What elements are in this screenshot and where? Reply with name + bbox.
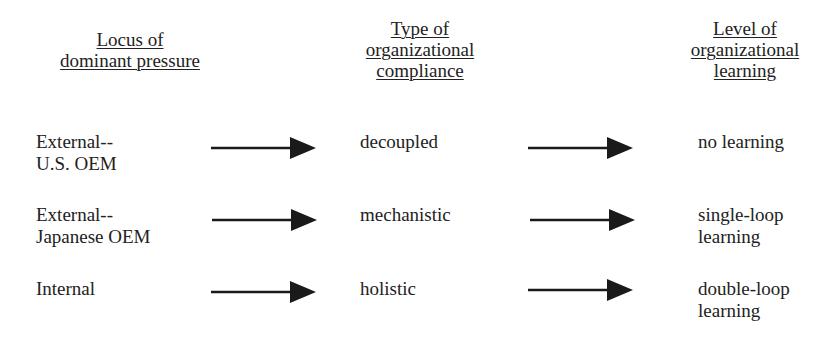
arrow-right-icon	[211, 208, 319, 232]
header-learning-line3: learning	[670, 60, 820, 81]
header-compliance-line2: organizational	[330, 39, 510, 60]
row1-locus-line2: U.S. OEM	[36, 153, 117, 175]
row3-locus-line1: Internal	[36, 278, 95, 300]
header-locus-line1: Locus of	[20, 29, 240, 50]
row2-locus-line2: Japanese OEM	[36, 226, 151, 248]
arrow-right-icon	[210, 280, 318, 304]
arrow-right-icon	[210, 136, 318, 160]
row2-compliance-line1: mechanistic	[360, 204, 451, 226]
row1-compliance: decoupled	[360, 131, 438, 153]
header-learning-line2: organizational	[670, 39, 820, 60]
header-compliance: Type of organizational compliance	[330, 18, 510, 81]
row3-learning-line2: learning	[698, 300, 790, 322]
row3-compliance-line1: holistic	[360, 278, 416, 300]
header-learning-line1: Level of	[670, 18, 820, 39]
header-compliance-line3: compliance	[330, 60, 510, 81]
row1-compliance-line1: decoupled	[360, 131, 438, 153]
row3-compliance: holistic	[360, 278, 416, 300]
arrow-right-icon	[527, 278, 635, 302]
header-locus: Locus of dominant pressure	[20, 29, 240, 71]
row2-learning-line1: single-loop	[698, 204, 784, 226]
row1-locus: External-- U.S. OEM	[36, 131, 117, 175]
row1-learning-line1: no learning	[698, 131, 784, 153]
row2-learning-line2: learning	[698, 226, 784, 248]
row1-locus-line1: External--	[36, 131, 117, 153]
row2-locus: External-- Japanese OEM	[36, 204, 151, 248]
header-compliance-line1: Type of	[330, 18, 510, 39]
arrow-right-icon	[527, 136, 635, 160]
row2-compliance: mechanistic	[360, 204, 451, 226]
header-learning: Level of organizational learning	[670, 18, 820, 81]
row3-learning-line1: double-loop	[698, 278, 790, 300]
row2-locus-line1: External--	[36, 204, 151, 226]
header-locus-line2: dominant pressure	[20, 50, 240, 71]
row3-locus: Internal	[36, 278, 95, 300]
row2-learning: single-loop learning	[698, 204, 784, 248]
arrow-right-icon	[529, 208, 637, 232]
row1-learning: no learning	[698, 131, 784, 153]
row3-learning: double-loop learning	[698, 278, 790, 322]
